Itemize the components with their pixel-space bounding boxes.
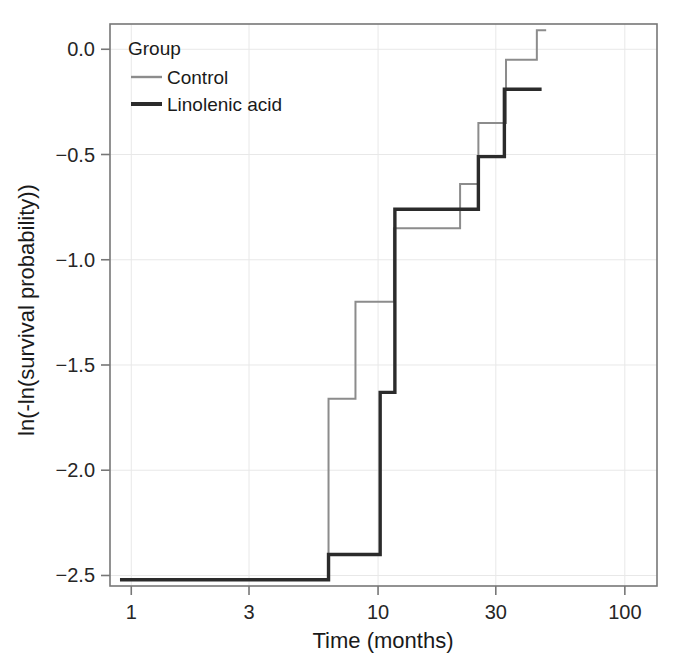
y-axis-tick-labels: 0.0−0.5−1.0−1.5−2.0−2.5 bbox=[56, 38, 95, 586]
x-tick-label: 100 bbox=[608, 601, 641, 623]
x-tick-label: 3 bbox=[243, 601, 254, 623]
x-tick-label: 30 bbox=[485, 601, 507, 623]
x-tick-label: 1 bbox=[126, 601, 137, 623]
y-tick-label: −1.5 bbox=[56, 354, 95, 376]
legend-title: Group bbox=[128, 38, 181, 59]
y-tick-label: −2.0 bbox=[56, 459, 95, 481]
y-tick-label: −1.0 bbox=[56, 249, 95, 271]
x-axis-tick-marks bbox=[131, 586, 625, 595]
x-axis-tick-labels: 131030100 bbox=[126, 601, 642, 623]
y-axis-tick-marks bbox=[101, 49, 110, 575]
survival-chart-figure: 131030100 0.0−0.5−1.0−1.5−2.0−2.5 Time (… bbox=[0, 0, 680, 668]
y-tick-label: 0.0 bbox=[67, 38, 95, 60]
y-tick-label: −0.5 bbox=[56, 144, 95, 166]
chart-canvas: 131030100 0.0−0.5−1.0−1.5−2.0−2.5 Time (… bbox=[0, 0, 680, 668]
x-tick-label: 10 bbox=[367, 601, 389, 623]
legend-label-linolenic-acid: Linolenic acid bbox=[167, 94, 282, 115]
y-tick-label: −2.5 bbox=[56, 564, 95, 586]
x-axis-title: Time (months) bbox=[313, 628, 454, 653]
legend-label-control: Control bbox=[167, 67, 228, 88]
y-axis-title: ln(-ln(survival probability)) bbox=[14, 184, 39, 436]
